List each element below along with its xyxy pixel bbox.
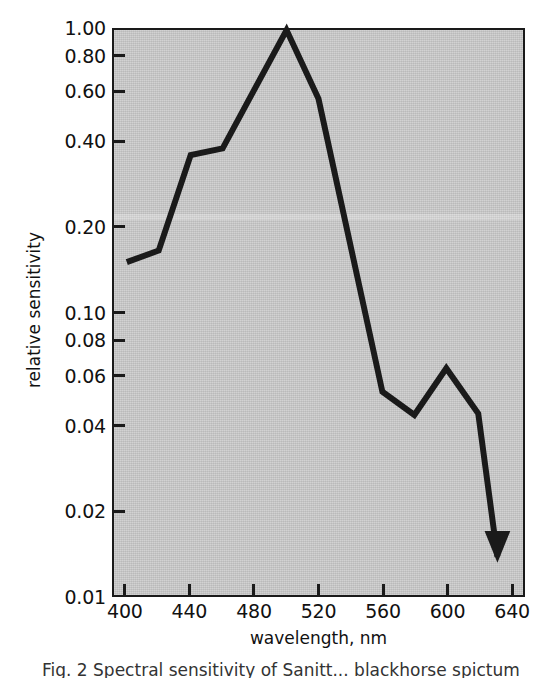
- x-axis-tick-label: 600: [413, 602, 483, 621]
- y-axis-tick: [112, 225, 125, 228]
- x-axis-title: wavelength, nm: [112, 628, 525, 648]
- figure-caption: Fig. 2 Spectral sensitivity of Sanitt...…: [42, 662, 522, 678]
- y-axis-tick-label: 0.20: [34, 218, 106, 237]
- x-axis-tick-label: 640: [477, 602, 547, 621]
- x-axis-tick: [252, 584, 255, 597]
- y-axis-tick: [112, 424, 125, 427]
- x-axis-tick: [382, 584, 385, 597]
- y-axis-tick: [112, 374, 125, 377]
- x-axis-tick-label: 440: [154, 602, 224, 621]
- y-axis-tick-label: 0.04: [34, 417, 106, 436]
- figure-spectral-sensitivity: 1.000.800.600.400.200.100.080.060.040.02…: [0, 0, 555, 678]
- x-axis-tick-label: 560: [348, 602, 418, 621]
- y-axis-title: relative sensitivity: [24, 180, 44, 440]
- x-axis-tick: [511, 584, 514, 597]
- y-axis-tick: [112, 90, 125, 93]
- figure-caption-clip: Fig. 2 Spectral sensitivity of Sanitt...…: [0, 662, 555, 678]
- plot-area: [112, 28, 525, 597]
- data-curve-svg: [114, 30, 523, 593]
- y-axis-tick: [112, 339, 125, 342]
- x-axis-tick-label: 400: [90, 602, 160, 621]
- y-axis-tick: [112, 54, 125, 57]
- y-axis-tick-label: 0.08: [34, 331, 106, 350]
- curve-end-arrow-icon: [485, 531, 511, 563]
- y-axis-tick-label: 1.00: [34, 19, 106, 38]
- data-series-line: [127, 30, 498, 557]
- x-axis-tick-label: 520: [284, 602, 354, 621]
- x-axis-tick-label: 480: [219, 602, 289, 621]
- y-axis-tick-label: 0.10: [34, 304, 106, 323]
- x-axis-tick: [446, 584, 449, 597]
- y-axis-tick: [112, 140, 125, 143]
- y-axis-tick-label: 0.80: [34, 47, 106, 66]
- x-axis-tick: [317, 584, 320, 597]
- y-axis-tick: [112, 311, 125, 314]
- y-axis-tick: [112, 510, 125, 513]
- x-axis-tick: [123, 584, 126, 597]
- y-axis-tick-label: 0.02: [34, 502, 106, 521]
- y-axis-tick-label: 0.40: [34, 132, 106, 151]
- x-axis-tick: [188, 584, 191, 597]
- y-axis-tick-label: 0.60: [34, 82, 106, 101]
- y-axis-tick-label: 0.06: [34, 367, 106, 386]
